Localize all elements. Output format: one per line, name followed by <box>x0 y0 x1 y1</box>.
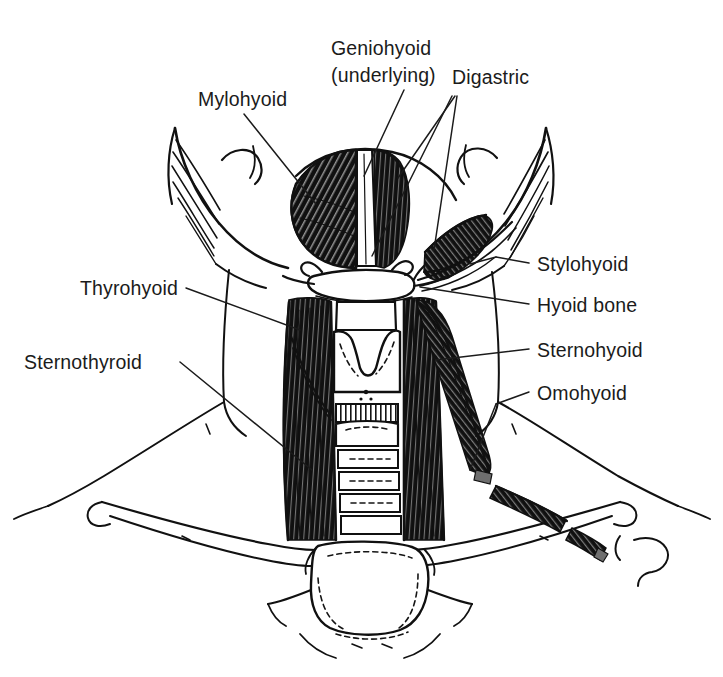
label-stylohyoid: Stylohyoid <box>537 253 628 275</box>
label-sternothyroid: Sternothyroid <box>24 351 142 373</box>
label-geniohyoid-line2: (underlying) <box>331 64 436 86</box>
left-infrahyoid-strap-muscles <box>284 298 336 540</box>
label-omohyoid: Omohyoid <box>537 382 627 404</box>
neck-muscle-diagram: Mylohyoid Geniohyoid (underlying) Digast… <box>0 0 723 677</box>
label-geniohyoid-line1: Geniohyoid <box>331 37 431 59</box>
anatomy-figure: Mylohyoid Geniohyoid (underlying) Digast… <box>0 0 723 677</box>
label-hyoid-bone: Hyoid bone <box>537 294 637 316</box>
label-digastric: Digastric <box>452 66 529 88</box>
label-thyrohyoid: Thyrohyoid <box>80 277 178 299</box>
geniohyoid-muscle <box>357 150 376 266</box>
label-mylohyoid: Mylohyoid <box>198 88 287 110</box>
label-sternohyoid: Sternohyoid <box>537 339 643 361</box>
